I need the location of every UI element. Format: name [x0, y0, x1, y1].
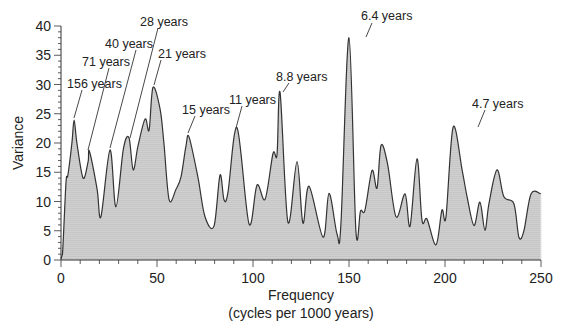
- y-tick-label: 40: [35, 18, 51, 34]
- leader-line: [74, 90, 82, 118]
- peak-label: 8.8 years: [276, 70, 327, 84]
- y-tick-label: 5: [43, 223, 51, 239]
- leader-line: [236, 106, 242, 128]
- x-tick-label: 100: [241, 270, 265, 286]
- y-tick-label: 30: [35, 77, 51, 93]
- y-tick-label: 25: [35, 106, 51, 122]
- peak-label: 40 years: [105, 37, 153, 51]
- peak-label: 11 years: [229, 93, 276, 107]
- leader-line: [154, 60, 161, 85]
- x-tick-label: 0: [57, 270, 65, 286]
- peak-label: 4.7 years: [472, 97, 523, 111]
- y-axis-label: Variance: [10, 116, 26, 170]
- peak-label: 21 years: [158, 47, 206, 61]
- peak-label: 156 years: [67, 77, 122, 91]
- leader-line: [283, 83, 289, 92]
- y-tick-label: 20: [35, 135, 51, 151]
- leader-line: [188, 116, 195, 133]
- y-tick-label: 15: [35, 164, 51, 180]
- y-tick-label: 35: [35, 47, 51, 63]
- y-tick-label: 0: [43, 252, 51, 268]
- x-tick-label: 150: [337, 270, 361, 286]
- x-tick-label: 250: [529, 270, 553, 286]
- x-tick-label: 50: [149, 270, 165, 286]
- leader-line: [366, 23, 372, 37]
- spectrum-chart: 0510152025303540050100150200250 156 year…: [0, 0, 569, 329]
- x-axis-label: Frequency: [268, 287, 334, 303]
- y-tick-label: 10: [35, 194, 51, 210]
- peak-label: 15 years: [182, 103, 230, 117]
- peak-label: 28 years: [140, 15, 188, 29]
- peak-label: 71 years: [82, 55, 130, 69]
- leader-line: [478, 110, 485, 127]
- x-axis-sublabel: (cycles per 1000 years): [228, 305, 374, 321]
- peak-label: 6.4 years: [361, 9, 412, 23]
- x-tick-label: 200: [433, 270, 457, 286]
